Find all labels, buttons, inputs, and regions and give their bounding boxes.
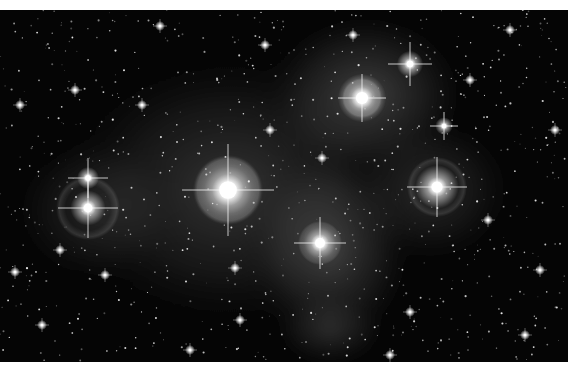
star-electra (407, 157, 467, 217)
pleiades-photo (0, 10, 568, 362)
star-field (0, 10, 568, 362)
star-maia (338, 74, 386, 122)
